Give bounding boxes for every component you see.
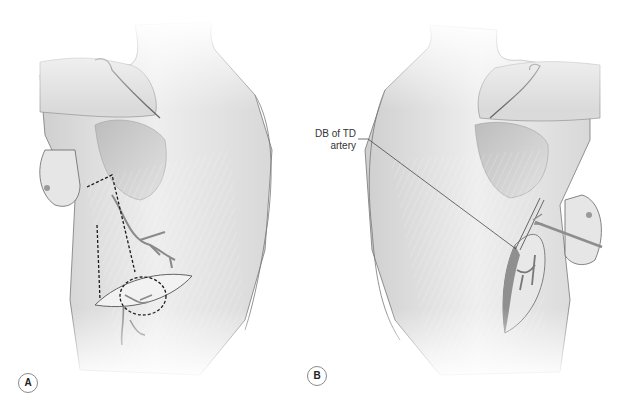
panel-label-b: B bbox=[307, 366, 327, 386]
annotation-db-td-artery: DB of TD artery bbox=[296, 128, 356, 152]
annotation-line-2: artery bbox=[296, 140, 356, 152]
annotation-line-1: DB of TD bbox=[296, 128, 356, 140]
panel-a-illustration bbox=[30, 20, 290, 380]
anatomical-illustration bbox=[0, 0, 632, 407]
panel-label-a: A bbox=[18, 373, 38, 393]
panel-b-illustration bbox=[350, 20, 620, 380]
